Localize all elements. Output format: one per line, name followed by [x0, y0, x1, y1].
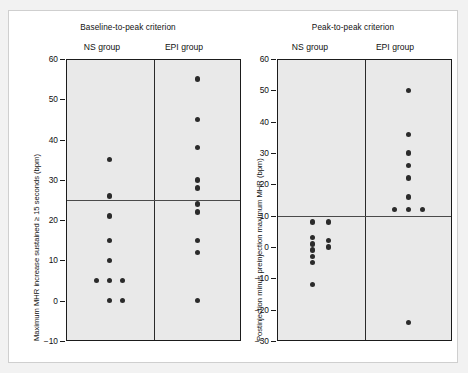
data-point [195, 185, 200, 190]
y-tick-label: 50 [243, 85, 269, 95]
y-tick-label: 50 [32, 94, 58, 104]
plot-area-baseline [66, 59, 241, 341]
y-tick-mark [60, 99, 65, 100]
data-point [195, 209, 200, 214]
data-point [392, 207, 397, 212]
y-tick-label: −10 [243, 273, 269, 283]
y-tick-label: 60 [32, 54, 58, 64]
y-tick-mark [60, 140, 65, 141]
y-tick-mark [271, 122, 276, 123]
data-point [195, 76, 200, 81]
panel-baseline-to-peak: Baseline-to-peak criterion NS group EPI … [9, 11, 247, 364]
y-tick-label: 0 [32, 296, 58, 306]
data-point [195, 201, 200, 206]
data-point [406, 320, 411, 325]
y-tick-label: 60 [243, 54, 269, 64]
y-tick-mark [60, 301, 65, 302]
group-label-epi-baseline: EPI group [149, 42, 219, 52]
y-tick-mark [271, 310, 276, 311]
figure-frame: Baseline-to-peak criterion NS group EPI … [8, 10, 458, 363]
data-point [406, 194, 411, 199]
y-tick-mark [60, 180, 65, 181]
group-label-epi-peak: EPI group [360, 42, 430, 52]
y-tick-mark [271, 153, 276, 154]
y-tick-label: 40 [243, 117, 269, 127]
data-point [406, 175, 411, 180]
group-divider-peak [365, 60, 366, 340]
y-tick-mark [60, 59, 65, 60]
data-point [406, 88, 411, 93]
y-tick-label: −10 [32, 336, 58, 346]
y-tick-mark [271, 278, 276, 279]
y-tick-label: 30 [243, 148, 269, 158]
y-tick-mark [271, 184, 276, 185]
y-tick-label: 10 [32, 255, 58, 265]
data-point [195, 238, 200, 243]
panel-peak-to-peak: Peak-to-peak criterion NS group EPI grou… [247, 11, 459, 364]
y-tick-label: 40 [32, 135, 58, 145]
reference-line-peak [278, 216, 451, 217]
group-label-ns-peak: NS group [275, 42, 345, 52]
group-label-ns-baseline: NS group [67, 42, 137, 52]
data-point [406, 207, 411, 212]
y-tick-label: 20 [243, 179, 269, 189]
y-tick-mark [271, 59, 276, 60]
data-point [195, 117, 200, 122]
data-point [406, 150, 411, 155]
y-tick-label: 30 [32, 175, 58, 185]
reference-line-baseline [67, 200, 240, 201]
y-tick-mark [271, 247, 276, 248]
y-tick-mark [271, 216, 276, 217]
y-tick-mark [271, 90, 276, 91]
y-tick-mark [271, 341, 276, 342]
y-tick-label: −20 [243, 305, 269, 315]
data-point [310, 241, 315, 246]
plot-area-peak [277, 59, 452, 341]
y-tick-label: 20 [32, 215, 58, 225]
data-point [195, 250, 200, 255]
data-point [195, 177, 200, 182]
y-tick-label: −30 [243, 336, 269, 346]
y-tick-label: 0 [243, 242, 269, 252]
panel-title-baseline: Baseline-to-peak criterion [9, 23, 247, 32]
panel-title-peak: Peak-to-peak criterion [247, 23, 459, 32]
data-point [406, 132, 411, 137]
data-point [420, 207, 425, 212]
y-tick-mark [60, 341, 65, 342]
y-tick-label: 10 [243, 211, 269, 221]
y-tick-mark [60, 260, 65, 261]
y-tick-mark [60, 220, 65, 221]
